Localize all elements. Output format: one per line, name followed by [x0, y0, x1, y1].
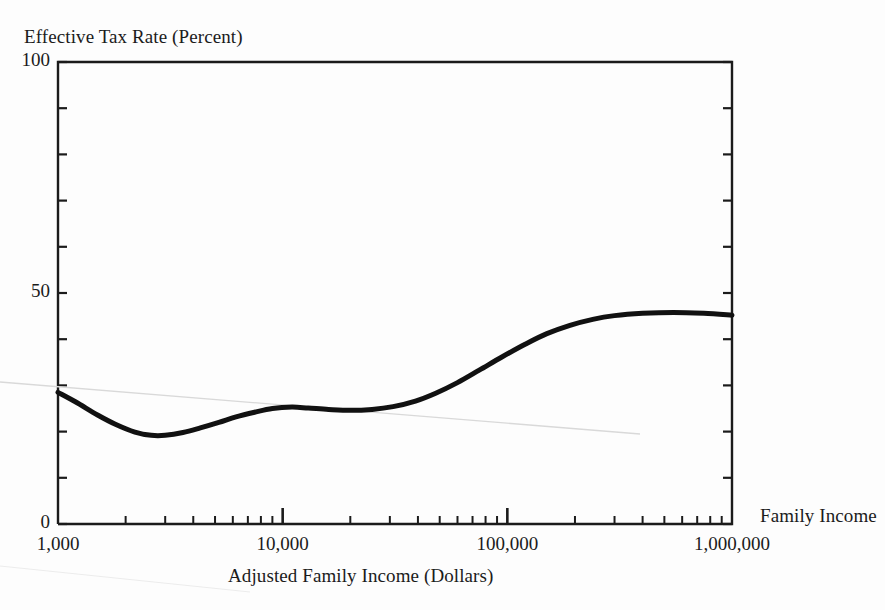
y-axis-ticks [58, 62, 732, 524]
chart-page: Effective Tax Rate (Percent) Adjusted Fa… [0, 0, 885, 610]
x-tick-label: 1,000,000 [662, 533, 802, 555]
chart-plot-area [0, 0, 885, 610]
x-tick-label: 10,000 [213, 533, 353, 555]
x-axis-ticks [126, 508, 722, 524]
y-tick-label: 50 [0, 280, 50, 302]
y-tick-label: 100 [0, 49, 50, 71]
x-tick-label: 100,000 [437, 533, 577, 555]
y-tick-label: 0 [0, 511, 50, 533]
data-series-group [58, 312, 732, 435]
x-tick-label: 1,000 [0, 533, 128, 555]
axis-frame [58, 62, 732, 524]
